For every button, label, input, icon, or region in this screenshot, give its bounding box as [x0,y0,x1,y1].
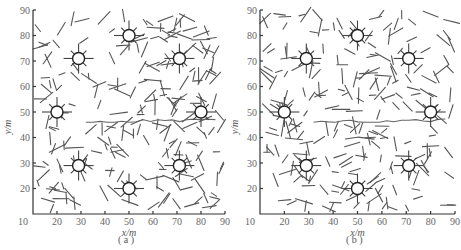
x-tick-label: 50 [353,216,363,227]
y-tick-label: 60 [247,81,257,92]
x-tick-label: 60 [377,216,387,227]
y-tick-label: 80 [20,30,30,41]
x-tick-label: 70 [172,216,182,227]
sensor-node-icon [343,174,373,204]
y-tick-label: 80 [247,30,257,41]
y-tick-label: 70 [247,56,257,67]
x-tick-label: 60 [148,216,158,227]
y-tick-label: 20 [247,183,257,194]
sensor-node-icon [416,97,446,127]
sensor-node-icon [394,43,424,73]
x-tick-label: 80 [426,216,436,227]
x-tick-label: 90 [220,216,230,227]
y-axis-label: y/m [2,120,13,135]
x-tick-label: 20 [279,216,289,227]
panel-b-caption: ( b ) [346,234,363,245]
y-tick-label: 90 [247,5,257,16]
panel-b: 1020304050607080902030405060708090x/my/m [229,5,460,239]
y-tick-label: 60 [20,81,30,92]
x-tick-label: 20 [52,216,62,227]
x-tick-label: 90 [450,216,460,227]
x-tick-label: 70 [401,216,411,227]
x-tick-label: 10 [245,216,255,227]
panel-a: 1020304050607080902030405060708090x/my/m [2,5,230,239]
y-tick-label: 20 [20,183,30,194]
y-tick-label: 90 [20,5,30,16]
y-tick-label: 40 [20,132,30,143]
x-tick-label: 10 [18,216,28,227]
x-tick-label: 40 [100,216,110,227]
trajectory-line [86,119,216,122]
sensor-node-icon [64,43,94,73]
x-tick-label: 40 [328,216,338,227]
figure-canvas: 1020304050607080902030405060708090x/my/m… [0,0,461,250]
y-tick-label: 50 [20,107,30,118]
sensor-node-icon [42,97,72,127]
panel-a-caption: ( a ) [118,234,134,245]
sensor-node-icon [64,151,94,181]
y-tick-label: 70 [20,56,30,67]
y-tick-label: 30 [247,158,257,169]
y-tick-label: 40 [247,132,257,143]
x-tick-label: 80 [196,216,206,227]
x-tick-label: 30 [304,216,314,227]
trajectory-line [314,119,446,122]
y-axis-label: y/m [229,120,240,135]
x-tick-label: 50 [124,216,134,227]
sensor-node-icon [394,151,424,181]
sensor-node-icon [114,174,144,204]
sensor-node-icon [343,21,373,51]
sensor-node-icon [186,97,216,127]
y-tick-label: 30 [20,158,30,169]
sensor-node-icon [291,151,321,181]
y-tick-label: 50 [247,107,257,118]
x-tick-label: 30 [76,216,86,227]
